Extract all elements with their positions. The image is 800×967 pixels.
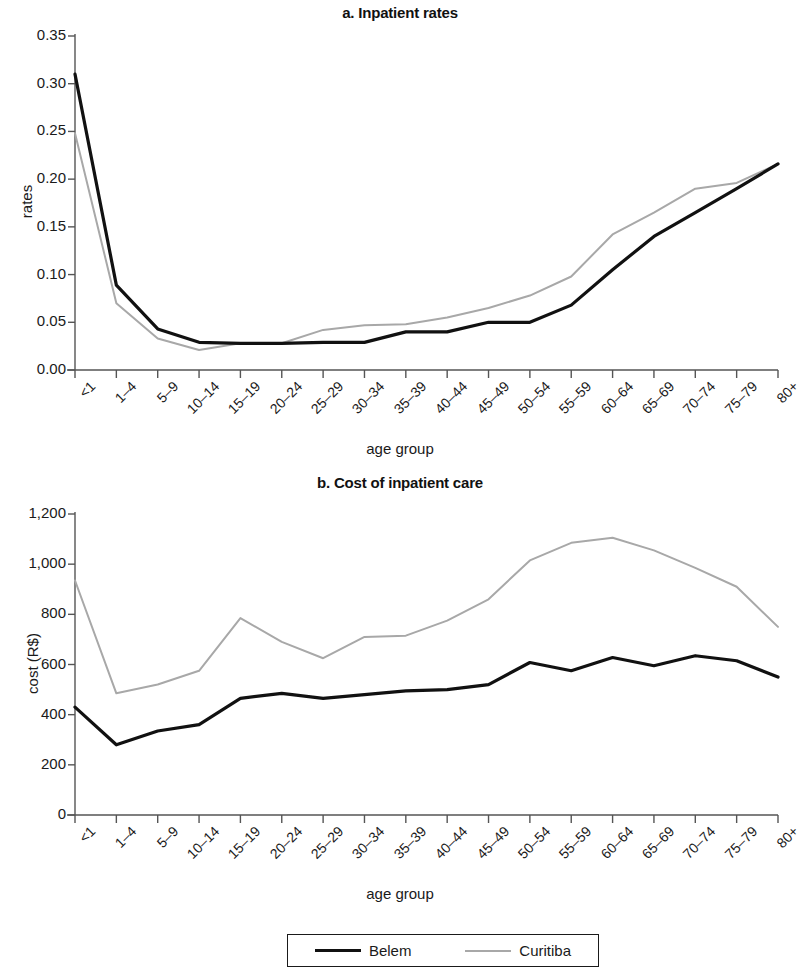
series-line-curitiba	[75, 538, 778, 694]
y-tick-label: 0.00	[37, 360, 66, 377]
y-tick-label: 0.15	[37, 217, 66, 234]
panel-a-x-axis-label: age group	[0, 440, 800, 457]
y-tick-label: 0.20	[37, 169, 66, 186]
series-line-belem	[75, 74, 778, 343]
line-swatch-gray-icon	[465, 950, 511, 952]
line-swatch-black-icon	[315, 949, 361, 952]
y-tick-label: 0.25	[37, 121, 66, 138]
y-tick-label: 0.10	[37, 265, 66, 282]
legend-label-curitiba: Curitiba	[519, 942, 571, 959]
legend-item-belem: Belem	[315, 942, 412, 959]
y-tick-label: 600	[41, 655, 66, 672]
y-tick-label: 800	[41, 604, 66, 621]
y-tick-label: 0.30	[37, 74, 66, 91]
figure-inpatient-rates-and-costs: a. Inpatient rates rates b. Cost of inpa…	[0, 0, 800, 967]
y-tick-label: 0.35	[37, 26, 66, 43]
legend-label-belem: Belem	[369, 942, 412, 959]
panel-b-x-axis-label: age group	[0, 885, 800, 902]
series-line-belem	[75, 656, 778, 745]
y-tick-label: 200	[41, 755, 66, 772]
chart-legend: Belem Curitiba	[287, 934, 599, 967]
y-tick-label: 0.05	[37, 312, 66, 329]
y-tick-label: 400	[41, 705, 66, 722]
y-tick-label: 0	[58, 805, 66, 822]
legend-item-curitiba: Curitiba	[465, 942, 571, 959]
y-tick-label: 1,000	[28, 554, 66, 571]
y-tick-label: 1,200	[28, 504, 66, 521]
series-line-curitiba	[75, 133, 778, 350]
